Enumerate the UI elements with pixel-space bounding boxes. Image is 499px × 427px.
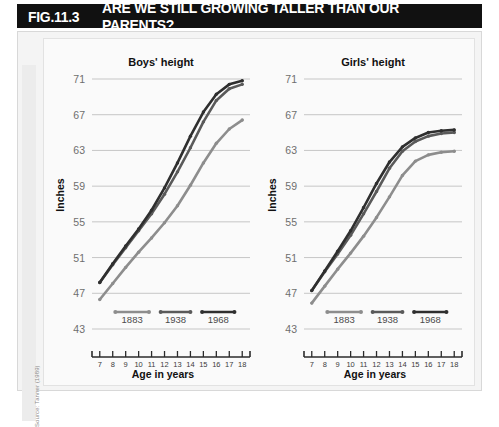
data-point bbox=[215, 142, 218, 145]
data-point bbox=[176, 161, 179, 164]
y-axis-tick-label: 47 bbox=[73, 287, 85, 299]
data-point bbox=[124, 244, 127, 247]
chart-plot-girls: 4347515559636771789101112131415161718188… bbox=[256, 39, 472, 387]
y-axis-tick-label: 55 bbox=[285, 216, 297, 228]
legend-swatch-dot bbox=[412, 310, 416, 314]
y-axis-tick-label: 59 bbox=[73, 180, 85, 192]
data-point bbox=[375, 182, 378, 185]
data-point bbox=[241, 118, 244, 121]
data-point bbox=[241, 83, 244, 86]
legend-swatch-dot bbox=[444, 310, 448, 314]
data-point bbox=[310, 289, 313, 292]
data-point bbox=[98, 281, 101, 284]
data-point bbox=[362, 234, 365, 237]
data-point bbox=[349, 251, 352, 254]
figure-plate: Source: Tanner (1989) Boys' height Inche… bbox=[17, 31, 482, 391]
data-point bbox=[388, 195, 391, 198]
legend-swatch-dot bbox=[325, 310, 329, 314]
legend-swatch-dot bbox=[400, 310, 404, 314]
y-axis-tick-label: 63 bbox=[73, 144, 85, 156]
data-point bbox=[215, 99, 218, 102]
y-axis-tick-label: 71 bbox=[285, 73, 297, 85]
data-point bbox=[150, 236, 153, 239]
legend-label-1883: 1883 bbox=[334, 314, 355, 325]
data-point bbox=[453, 150, 456, 153]
data-point bbox=[310, 301, 313, 304]
y-axis-tick-label: 43 bbox=[73, 323, 85, 335]
data-point bbox=[440, 151, 443, 154]
data-point bbox=[362, 212, 365, 215]
source-strip: Source: Tanner (1989) bbox=[22, 65, 36, 421]
data-point bbox=[241, 79, 244, 82]
data-point bbox=[189, 146, 192, 149]
legend-swatch-dot bbox=[159, 310, 163, 314]
legend-label-1968: 1968 bbox=[208, 314, 229, 325]
data-point bbox=[323, 269, 326, 272]
y-axis-tick-label: 51 bbox=[285, 252, 297, 264]
data-point bbox=[349, 229, 352, 232]
data-point bbox=[137, 251, 140, 254]
series-line-1883 bbox=[100, 120, 242, 299]
data-point bbox=[228, 127, 231, 130]
data-point bbox=[111, 262, 114, 265]
chart-plot-boys: 4347515559636771789101112131415161718188… bbox=[44, 39, 260, 387]
data-point bbox=[323, 284, 326, 287]
data-point bbox=[163, 186, 166, 189]
data-point bbox=[336, 250, 339, 253]
x-axis-label-girls: Age in years bbox=[256, 368, 472, 380]
figure-title-bar: FIG.11.3 ARE WE STILL GROWING TALLER THA… bbox=[17, 4, 482, 28]
series-line-1938 bbox=[312, 133, 454, 291]
data-point bbox=[427, 131, 430, 134]
data-point bbox=[98, 298, 101, 301]
figure-headline: ARE WE STILL GROWING TALLER THAN OUR PAR… bbox=[102, 0, 455, 33]
chart-panel-boys: Boys' height Inches 43475155596367717891… bbox=[44, 39, 260, 387]
data-point bbox=[362, 206, 365, 209]
y-axis-tick-label: 47 bbox=[285, 287, 297, 299]
data-point bbox=[401, 145, 404, 148]
y-axis-tick-label: 51 bbox=[73, 252, 85, 264]
charts-container: Boys' height Inches 43475155596367717891… bbox=[43, 38, 475, 386]
legend-label-1968: 1968 bbox=[420, 314, 441, 325]
legend-swatch-dot bbox=[371, 310, 375, 314]
data-point bbox=[440, 129, 443, 132]
legend-swatch-dot bbox=[359, 310, 363, 314]
data-point bbox=[189, 184, 192, 187]
data-point bbox=[202, 161, 205, 164]
legend-swatch-dot bbox=[188, 310, 192, 314]
data-point bbox=[228, 83, 231, 86]
figure-number: FIG.11.3 bbox=[28, 8, 79, 25]
data-point bbox=[176, 204, 179, 207]
y-axis-tick-label: 59 bbox=[285, 180, 297, 192]
chart-panel-girls: Girls' height Inches 4347515559636771789… bbox=[256, 39, 472, 387]
y-axis-tick-label: 67 bbox=[73, 109, 85, 121]
y-axis-tick-label: 55 bbox=[73, 216, 85, 228]
data-point bbox=[453, 128, 456, 131]
data-point bbox=[228, 87, 231, 90]
legend-label-1938: 1938 bbox=[165, 314, 186, 325]
legend-swatch-dot bbox=[113, 310, 117, 314]
data-point bbox=[137, 227, 140, 230]
y-axis-tick-label: 71 bbox=[73, 73, 85, 85]
data-point bbox=[414, 136, 417, 139]
data-point bbox=[336, 267, 339, 270]
x-axis-label-boys: Age in years bbox=[44, 368, 260, 380]
data-point bbox=[163, 192, 166, 195]
data-point bbox=[401, 174, 404, 177]
y-axis-tick-label: 67 bbox=[285, 109, 297, 121]
data-point bbox=[388, 167, 391, 170]
legend-label-1883: 1883 bbox=[122, 314, 143, 325]
data-point bbox=[202, 120, 205, 123]
legend-swatch-dot bbox=[147, 310, 151, 314]
legend-swatch-dot bbox=[200, 310, 204, 314]
data-point bbox=[189, 134, 192, 137]
data-point bbox=[150, 209, 153, 212]
data-point bbox=[163, 221, 166, 224]
source-attribution: Source: Tanner (1989) bbox=[34, 277, 40, 427]
data-point bbox=[215, 92, 218, 95]
data-point bbox=[202, 110, 205, 113]
data-point bbox=[427, 134, 430, 137]
data-point bbox=[176, 170, 179, 173]
legend-swatch-dot bbox=[232, 310, 236, 314]
legend-label-1938: 1938 bbox=[377, 314, 398, 325]
